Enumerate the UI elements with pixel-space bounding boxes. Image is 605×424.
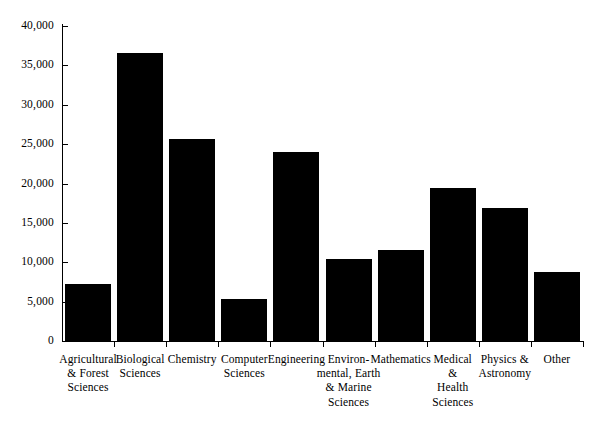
- y-axis-tick-label: 20,000: [21, 178, 54, 190]
- y-axis-tick: [62, 144, 68, 145]
- bar-chart: 05,00010,00015,00020,00025,00030,00035,0…: [0, 0, 605, 424]
- x-axis-tick: [270, 341, 271, 347]
- y-axis-tick-label: 5,000: [27, 296, 54, 308]
- x-axis-tick: [479, 341, 480, 347]
- x-axis-tick: [583, 341, 584, 347]
- bar: [117, 53, 163, 341]
- x-axis-tick: [218, 341, 219, 347]
- x-axis-tick: [323, 341, 324, 347]
- x-axis-tick: [114, 341, 115, 347]
- y-axis-tick-label: 40,000: [21, 20, 54, 32]
- bar: [378, 250, 424, 341]
- bar: [482, 208, 528, 341]
- y-axis-tick: [62, 262, 68, 263]
- y-axis-tick-label: 25,000: [21, 138, 54, 150]
- x-axis-tick: [531, 341, 532, 347]
- y-axis-tick-label: 0: [48, 335, 54, 347]
- x-axis-category-label: Other: [525, 352, 589, 366]
- bar: [430, 188, 476, 341]
- y-axis-tick: [62, 223, 68, 224]
- y-axis-tick: [62, 341, 68, 342]
- bar: [65, 284, 111, 341]
- bar: [534, 272, 580, 341]
- y-axis-tick: [62, 105, 68, 106]
- x-axis-tick: [166, 341, 167, 347]
- y-axis-tick-label: 15,000: [21, 217, 54, 229]
- bar: [326, 259, 372, 341]
- bar: [273, 152, 319, 341]
- y-axis-tick-label: 30,000: [21, 99, 54, 111]
- y-axis-tick: [62, 26, 68, 27]
- bar: [221, 299, 267, 341]
- y-axis-tick-label: 35,000: [21, 59, 54, 71]
- x-axis-tick: [427, 341, 428, 347]
- x-axis-tick: [375, 341, 376, 347]
- y-axis-tick: [62, 184, 68, 185]
- y-axis-tick-label: 10,000: [21, 256, 54, 268]
- y-axis-tick: [62, 65, 68, 66]
- bar: [169, 139, 215, 341]
